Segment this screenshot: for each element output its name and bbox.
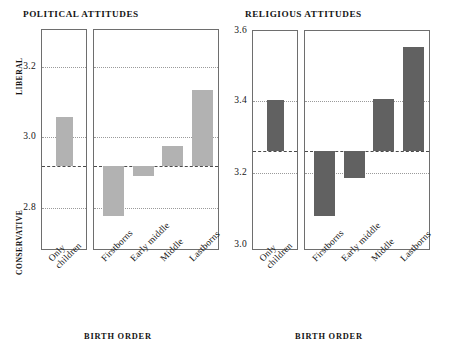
y-tick-religious-3-6: 3.6: [219, 25, 247, 35]
gridline-2-8: [42, 208, 86, 209]
x-axis-title-political: BIRTH ORDER: [84, 332, 152, 341]
plot-political-only-children: [41, 29, 87, 250]
bar-lastborns-religious: [403, 47, 424, 151]
y-tick-political-2-8: 2.8: [8, 202, 36, 212]
x-axis-title-religious: BIRTH ORDER: [295, 332, 363, 341]
baseline-political-left: [42, 166, 86, 167]
panel-title-religious: RELIGIOUS ATTITUDES: [245, 9, 362, 19]
bar-middle-political: [162, 146, 183, 166]
bar-middle-religious: [373, 99, 394, 151]
panel-political-attitudes: POLITICAL ATTITUDES LIBERAL CONSERVATIVE…: [0, 0, 226, 356]
bar-only-children-religious: [267, 100, 284, 151]
bar-early-middle-religious: [344, 151, 365, 178]
gridline-3-2: [42, 67, 86, 68]
y-tick-political-3-0: 3.0: [8, 131, 36, 141]
bar-firstborns-political: [103, 166, 124, 216]
plot-religious-birth-order: [304, 30, 430, 250]
figure-birth-order-attitudes: POLITICAL ATTITUDES LIBERAL CONSERVATIVE…: [0, 0, 452, 356]
y-tick-religious-3-4: 3.4: [219, 95, 247, 105]
panel-religious-attitudes: RELIGIOUS ATTITUDES 3.6 3.4 3.2 3.0 Only…: [226, 0, 452, 356]
plot-religious-only-children: [252, 30, 298, 250]
bar-lastborns-political: [192, 90, 213, 166]
gridline-3-2: [253, 173, 297, 174]
y-tick-religious-3-2: 3.2: [219, 167, 247, 177]
y-tick-political-3-2: 3.2: [8, 61, 36, 71]
bar-firstborns-religious: [314, 151, 335, 216]
panel-title-political: POLITICAL ATTITUDES: [23, 9, 139, 19]
y-axis-label-conservative: CONSERVATIVE: [15, 210, 24, 275]
bar-early-middle-political: [133, 166, 154, 176]
plot-political-birth-order: [93, 29, 219, 250]
gridline-3-2: [94, 67, 218, 68]
bar-only-children-political: [56, 117, 73, 166]
y-tick-religious-3-0: 3.0: [219, 239, 247, 249]
baseline-religious-left: [253, 151, 297, 152]
